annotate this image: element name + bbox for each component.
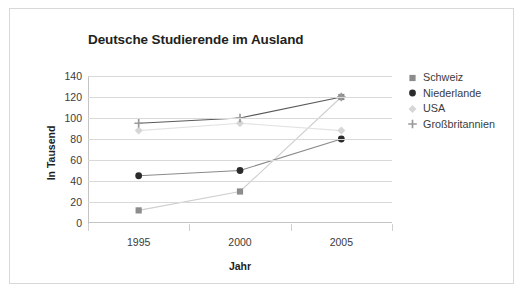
data-point <box>237 167 244 174</box>
x-axis-title: Jahr <box>229 260 251 272</box>
x-axis-tick <box>392 224 393 231</box>
gridline <box>88 160 392 161</box>
series-schweiz <box>136 94 345 214</box>
data-point <box>135 172 142 179</box>
data-point <box>337 127 345 135</box>
y-tick-label: 40 <box>70 175 82 187</box>
chart-legend: SchweizNiederlandeUSAGroßbritannien <box>406 70 525 132</box>
chart-title: Deutsche Studierende im Ausland <box>88 32 303 47</box>
y-tick-label: 100 <box>64 112 82 124</box>
legend-item[interactable]: Niederlande <box>406 86 525 102</box>
plus-marker-icon <box>407 119 418 130</box>
legend-item[interactable]: USA <box>406 101 525 117</box>
legend-item-label: Niederlande <box>423 87 481 99</box>
y-axis-title: In Tausend <box>45 126 57 181</box>
data-point <box>237 188 243 194</box>
circle-marker-icon <box>407 88 418 99</box>
gridline <box>88 139 392 140</box>
legend-item[interactable]: Schweiz <box>406 70 525 86</box>
legend-marker-shape <box>409 105 417 113</box>
data-point <box>135 127 143 135</box>
gridline <box>88 181 392 182</box>
x-axis-tick <box>189 224 190 231</box>
y-tick-label: 140 <box>64 70 82 82</box>
gridline <box>88 97 392 98</box>
data-point <box>136 207 142 213</box>
legend-item-label: USA <box>423 102 445 114</box>
y-tick-label: 20 <box>70 196 82 208</box>
legend-marker-shape <box>408 120 417 129</box>
legend-item-label: Schweiz <box>423 71 463 83</box>
legend-marker-shape <box>409 90 416 97</box>
gridline <box>88 76 392 77</box>
legend-marker-shape <box>409 75 415 81</box>
y-tick-label: 0 <box>76 217 82 229</box>
x-axis-tick <box>291 224 292 231</box>
gridline <box>88 202 392 203</box>
diamond-marker-icon <box>407 103 418 114</box>
chart-frame: Deutsche Studierende im Ausland In Tause… <box>9 8 514 284</box>
series-plot <box>88 76 392 223</box>
y-tick-label: 120 <box>64 91 82 103</box>
x-tick-label: 2005 <box>330 236 353 248</box>
x-axis-line <box>88 222 392 223</box>
legend-item[interactable]: Großbritannien <box>406 117 525 133</box>
data-point <box>134 119 143 128</box>
legend-item-label: Großbritannien <box>423 118 495 130</box>
series-niederlande <box>135 136 344 180</box>
x-tick-label: 1995 <box>127 236 150 248</box>
gridline <box>88 118 392 119</box>
y-tick-label: 60 <box>70 154 82 166</box>
y-tick-label: 80 <box>70 133 82 145</box>
square-marker-icon <box>407 72 418 83</box>
x-axis-tick <box>88 224 89 231</box>
plot-area: 020406080100120140 199520002005 <box>88 76 392 223</box>
x-tick-label: 2000 <box>228 236 251 248</box>
